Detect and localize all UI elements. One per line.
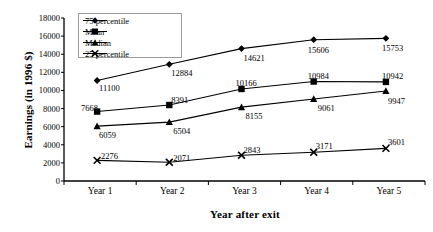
data-label: 10942 <box>382 72 403 81</box>
x-tick-label: Year 5 <box>349 186 429 196</box>
x-tick-label: Year 2 <box>132 186 212 196</box>
data-label: 9947 <box>388 97 405 106</box>
x-tick-label: Year 1 <box>60 186 140 196</box>
earnings-line-chart: Earnings (in 1996 $) 0200040006000800010… <box>0 0 433 232</box>
series-3 <box>94 145 390 166</box>
legend-item-1: Mean <box>82 26 104 37</box>
square-marker-icon <box>82 26 108 37</box>
data-label: 8391 <box>171 96 188 105</box>
data-label: 3601 <box>388 138 405 147</box>
data-label: 14621 <box>244 54 265 63</box>
diamond-marker-icon <box>310 36 317 43</box>
diamond-marker-icon <box>82 15 108 26</box>
legend-item-3: 25 percentile <box>82 48 129 59</box>
data-label: 15753 <box>382 44 403 53</box>
x-tick-label: Year 3 <box>205 186 285 196</box>
data-label: 15606 <box>308 46 329 55</box>
data-label: 9061 <box>318 104 335 113</box>
triangle-marker-icon <box>82 37 108 48</box>
legend: 75 percentile Mean Median 25 percentile <box>78 13 182 58</box>
x-axis-title: Year after exit <box>64 208 426 220</box>
data-label: 6504 <box>173 127 190 136</box>
data-label: 11100 <box>99 84 120 93</box>
data-label: 2843 <box>244 146 261 155</box>
data-label: 8155 <box>246 112 263 121</box>
legend-item-0: 75 percentile <box>82 15 129 26</box>
diamond-marker-icon <box>383 35 390 42</box>
data-label: 7668 <box>81 104 98 113</box>
triangle-marker-icon <box>382 87 389 94</box>
data-label: 12884 <box>171 69 192 78</box>
data-label: 2071 <box>173 154 190 163</box>
data-label: 6059 <box>99 131 116 140</box>
x-tick-label: Year 4 <box>277 186 357 196</box>
x-marker-icon <box>82 48 108 59</box>
legend-item-2: Median <box>82 37 111 48</box>
data-label: 10984 <box>308 72 329 81</box>
plot-area <box>0 0 433 232</box>
diamond-marker-icon <box>166 61 173 68</box>
data-label: 10166 <box>236 79 257 88</box>
diamond-marker-icon <box>238 45 245 52</box>
data-label: 2276 <box>101 152 118 161</box>
data-label: 3171 <box>316 142 333 151</box>
